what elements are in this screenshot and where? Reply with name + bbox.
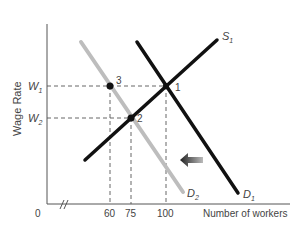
- s1-label: S1: [222, 30, 233, 44]
- d1-label: D1: [243, 188, 255, 202]
- x-tick-75: 75: [125, 208, 137, 219]
- left-arrow-icon: [180, 153, 203, 167]
- y-tick-w1: W1: [28, 80, 42, 94]
- point-1: [163, 83, 169, 89]
- origin-label: 0: [35, 208, 41, 219]
- x-tick-60: 60: [104, 208, 116, 219]
- point-label-1: 1: [175, 82, 181, 93]
- x-tick-100: 100: [157, 208, 174, 219]
- d2-label: D2: [187, 187, 199, 201]
- point-label-2: 2: [137, 113, 143, 124]
- point-label-3: 3: [116, 75, 122, 86]
- point-2: [128, 115, 135, 122]
- labor-market-chart: 3 2 1 W1 W2 Wage Rate 0 60 75 100 Number…: [0, 0, 293, 241]
- x-axis-label: Number of workers: [203, 208, 287, 219]
- y-axis-label: Wage Rate: [11, 81, 23, 136]
- y-tick-w2: W2: [28, 112, 42, 126]
- point-3: [107, 83, 114, 90]
